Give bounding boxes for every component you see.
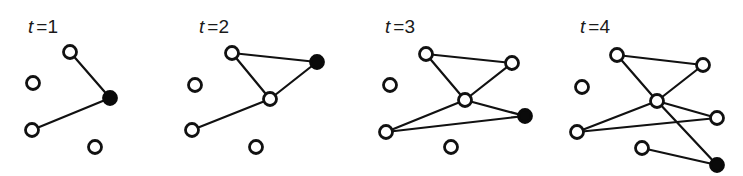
edge xyxy=(657,65,703,101)
edge xyxy=(617,55,703,65)
node xyxy=(186,124,199,137)
panel-t4: t=4 xyxy=(571,16,724,172)
panel-t1: t=1 xyxy=(26,16,117,154)
edge xyxy=(270,62,317,99)
node xyxy=(89,141,102,154)
node xyxy=(445,141,458,154)
node xyxy=(611,49,624,62)
panel-t3: t=3 xyxy=(380,16,532,154)
edge xyxy=(426,54,512,63)
edge xyxy=(192,99,270,130)
node xyxy=(189,79,202,92)
node xyxy=(576,81,589,94)
node xyxy=(506,57,519,70)
node xyxy=(64,46,77,59)
edge xyxy=(642,148,717,165)
edge xyxy=(32,98,110,130)
node xyxy=(384,79,397,92)
time-step-label: t=2 xyxy=(199,16,229,37)
node xyxy=(651,95,664,108)
time-step-label: t=1 xyxy=(28,16,58,37)
network-growth-diagram: t=1t=2t=3t=4 xyxy=(0,0,743,176)
edge xyxy=(70,52,110,98)
new-node xyxy=(104,92,117,105)
node xyxy=(264,93,277,106)
edge xyxy=(617,55,657,101)
node xyxy=(250,141,263,154)
node xyxy=(571,126,584,139)
node xyxy=(27,77,40,90)
node xyxy=(711,112,724,125)
node xyxy=(459,94,472,107)
node xyxy=(26,124,39,137)
panel-t2: t=2 xyxy=(186,16,324,154)
new-node xyxy=(311,56,324,69)
node xyxy=(226,47,239,60)
time-step-label: t=3 xyxy=(385,16,415,37)
edge xyxy=(426,54,465,100)
node xyxy=(420,48,433,61)
node xyxy=(380,126,393,139)
edge xyxy=(232,53,270,99)
node xyxy=(697,59,710,72)
new-node xyxy=(711,159,724,172)
time-step-label: t=4 xyxy=(580,16,610,37)
node xyxy=(636,142,649,155)
edge xyxy=(465,100,525,116)
edge xyxy=(232,53,317,62)
edge xyxy=(465,63,512,100)
new-node xyxy=(519,110,532,123)
